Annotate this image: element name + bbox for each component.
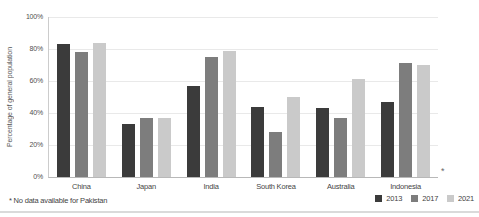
category-label-indonesia: Indonesia [390,182,421,191]
bar-groups: ChinaJapanIndiaSouth KoreaAustraliaIndon… [49,17,438,177]
plot-area: ChinaJapanIndiaSouth KoreaAustraliaIndon… [48,17,438,178]
bar-group-australia: Australia [316,17,365,177]
bar-india-2013 [187,86,200,177]
bar-australia-2017 [334,118,347,177]
bar-india-2017 [205,57,218,177]
legend-label-2017: 2017 [422,194,438,203]
bar-japan-2013 [122,124,135,177]
legend-swatch-2013 [375,195,382,202]
bar-china-2017 [75,52,88,177]
y-tick-label-0: 0% [33,173,43,181]
bar-china-2013 [57,44,70,177]
bar-australia-2013 [316,108,329,177]
category-label-south-korea: South Korea [256,182,296,191]
legend-item-2021: 2021 [447,194,474,203]
y-tick-label-40: 40% [30,109,43,117]
category-label-australia: Australia [327,182,354,191]
bar-group-japan: Japan [122,17,171,177]
legend-label-2013: 2013 [386,194,402,203]
category-label-japan: Japan [137,182,156,191]
legend-label-2021: 2021 [458,194,474,203]
bar-south-korea-2021 [287,97,300,177]
legend-item-2017: 2017 [411,194,438,203]
category-label-india: India [203,182,218,191]
bar-australia-2021 [352,79,365,177]
bar-chart: Percentage of general population 0%20%40… [0,0,479,217]
y-tick-label-60: 60% [30,77,43,85]
bottom-divider [0,211,479,213]
category-label-china: China [72,182,91,191]
y-tick-label-100: 100% [26,13,43,21]
bar-group-india: India [187,17,236,177]
y-axis-tick-labels: 0%20%40%60%80%100% [0,17,43,177]
bar-south-korea-2017 [269,132,282,177]
y-tick-label-80: 80% [30,45,43,53]
legend-item-2013: 2013 [375,194,402,203]
bar-india-2021 [223,51,236,177]
bar-japan-2017 [140,118,153,177]
bar-group-indonesia: Indonesia [381,17,430,177]
bar-group-china: China [57,17,106,177]
y-tick-label-20: 20% [30,141,43,149]
footnote: * No data available for Pakistan [9,196,107,205]
bar-indonesia-2021 [417,65,430,177]
legend-swatch-2017 [411,195,418,202]
legend-swatch-2021 [447,195,454,202]
bar-indonesia-2017 [399,63,412,177]
bar-south-korea-2013 [251,107,264,177]
bar-china-2021 [93,43,106,177]
bar-indonesia-2013 [381,102,394,177]
legend: 201320172021 [375,194,474,203]
bar-group-south-korea: South Korea [251,17,300,177]
bar-japan-2021 [158,118,171,177]
no-data-asterisk: * [441,166,445,176]
